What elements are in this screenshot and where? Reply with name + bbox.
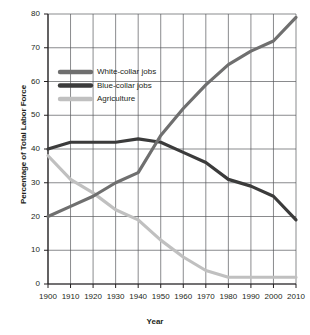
legend-item-label: White-collar jobs — [97, 67, 156, 76]
y-tick-label: 50 — [14, 110, 40, 119]
y-tick-label: 20 — [14, 212, 40, 221]
y-tick-label: 0 — [14, 279, 40, 288]
y-tick-label: 80 — [14, 9, 40, 18]
legend-swatches — [60, 72, 91, 99]
y-tick-label: 70 — [14, 43, 40, 52]
y-tick-label: 30 — [14, 178, 40, 187]
data-series-lines — [48, 17, 296, 277]
x-tick-label: 2010 — [283, 292, 309, 301]
y-tick-label: 10 — [14, 245, 40, 254]
plot-area — [0, 0, 310, 335]
legend-item-label: Agriculture — [97, 94, 135, 103]
legend-item-label: Blue-collar jobs — [97, 81, 152, 90]
y-tick-label: 60 — [14, 77, 40, 86]
y-tick-label: 40 — [14, 144, 40, 153]
chart-figure: Percentage of Total Labor Force Year 010… — [0, 0, 310, 335]
